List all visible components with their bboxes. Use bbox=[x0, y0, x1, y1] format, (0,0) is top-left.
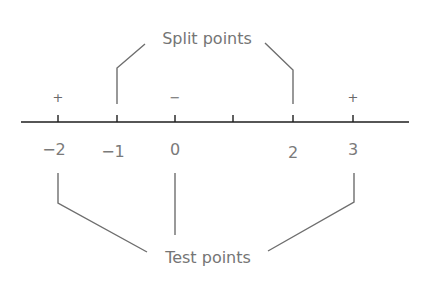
split-points-label: Split points bbox=[162, 29, 252, 48]
tick-label: 2 bbox=[288, 143, 298, 162]
tick-marks bbox=[58, 115, 353, 122]
test-leader-right bbox=[268, 173, 354, 251]
test-leader-left bbox=[58, 173, 147, 252]
tick-label: −2 bbox=[42, 140, 66, 159]
split-leader-left bbox=[117, 44, 145, 104]
sign-negative-middle: − bbox=[170, 90, 181, 105]
tick-label: 3 bbox=[348, 140, 358, 159]
tick-label: −1 bbox=[101, 142, 125, 161]
tick-labels: −2−1023 bbox=[42, 140, 358, 162]
tick-label: 0 bbox=[170, 140, 180, 159]
sign-positive-right: + bbox=[348, 90, 359, 105]
test-points-label: Test points bbox=[164, 248, 251, 267]
sign-chart-diagram: Split points + − + −2−1023 Test points bbox=[0, 0, 423, 281]
sign-positive-left: + bbox=[53, 90, 64, 105]
split-leader-right bbox=[265, 43, 293, 104]
